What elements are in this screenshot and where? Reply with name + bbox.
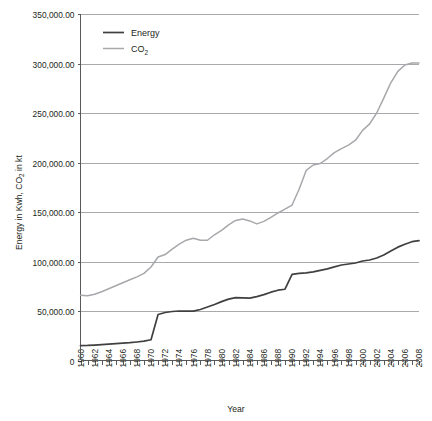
x-axis-tick-label: 1970 <box>146 349 156 368</box>
y-axis-tick-label: 350,000.00 <box>33 10 75 20</box>
x-axis-tick-label: 1998 <box>344 349 354 368</box>
y-axis-tick-label: 100,000.00 <box>33 258 75 268</box>
y-axis-tick-label: 250,000.00 <box>33 109 75 119</box>
x-axis-tick-label: 1990 <box>287 349 297 368</box>
x-axis-tick-label: 2006 <box>400 349 410 368</box>
x-axis-tick-label: 1968 <box>132 349 142 368</box>
x-axis-tick-label: 1992 <box>301 349 311 368</box>
legend-label-energy: Energy <box>131 28 160 38</box>
x-axis-tick-label: 1986 <box>259 349 269 368</box>
y-axis-tick-label: 50,000.00 <box>37 307 75 317</box>
y-axis-tick-label: 200,000.00 <box>33 159 75 169</box>
x-axis-title: Year <box>227 404 245 414</box>
y-axis-title: Energy in Kwh, CO2 in kt <box>14 155 25 250</box>
x-axis-tick-label: 1966 <box>118 349 128 368</box>
x-axis-tick-label: 1984 <box>245 349 255 368</box>
line-chart: 050,000.00100,000.00150,000.00200,000.00… <box>0 0 432 421</box>
x-axis-tick-label: 2000 <box>358 349 368 368</box>
x-axis-tick-label: 1964 <box>104 349 114 368</box>
chart-container: 050,000.00100,000.00150,000.00200,000.00… <box>0 0 432 421</box>
data-series-group <box>81 63 420 346</box>
x-axis-labels-group: 1960196219641966196819701972197419761978… <box>76 349 425 368</box>
x-axis-tick-label: 2008 <box>414 349 424 368</box>
y-axis-title-pre: Energy in Kwh, CO <box>14 177 24 250</box>
x-axis-tick-label: 1974 <box>174 349 184 368</box>
x-axis-tick-label: 1976 <box>189 349 199 368</box>
x-axis-tick-label: 1996 <box>330 349 340 368</box>
x-axis-tick-label: 1994 <box>315 349 325 368</box>
x-axis-tick-label: 1972 <box>160 349 170 368</box>
svg-text:Energy in Kwh, CO2 in kt: Energy in Kwh, CO2 in kt <box>14 155 25 250</box>
x-axis-tick-label: 1962 <box>90 349 100 368</box>
series-line-energy <box>81 241 420 346</box>
legend: Energy CO2 <box>103 28 160 56</box>
x-axis-title-label: Year <box>227 404 245 414</box>
gridlines-group <box>81 15 420 312</box>
x-axis-tick-label: 2004 <box>386 349 396 368</box>
y-axis-tick-label: 0 <box>70 357 75 367</box>
y-axis-title-post: in kt <box>14 155 24 174</box>
legend-label-co2: CO2 <box>131 44 149 56</box>
x-axis-tick-label: 2002 <box>372 349 382 368</box>
y-axis-tick-label: 300,000.00 <box>33 60 75 70</box>
x-axis-tick-label: 1988 <box>273 349 283 368</box>
y-axis-tick-label: 150,000.00 <box>33 208 75 218</box>
x-axis-tick-label: 1982 <box>231 349 241 368</box>
x-axis-tick-label: 1980 <box>217 349 227 368</box>
x-axis-tick-label: 1978 <box>203 349 213 368</box>
y-axis-labels-group: 050,000.00100,000.00150,000.00200,000.00… <box>33 10 75 367</box>
